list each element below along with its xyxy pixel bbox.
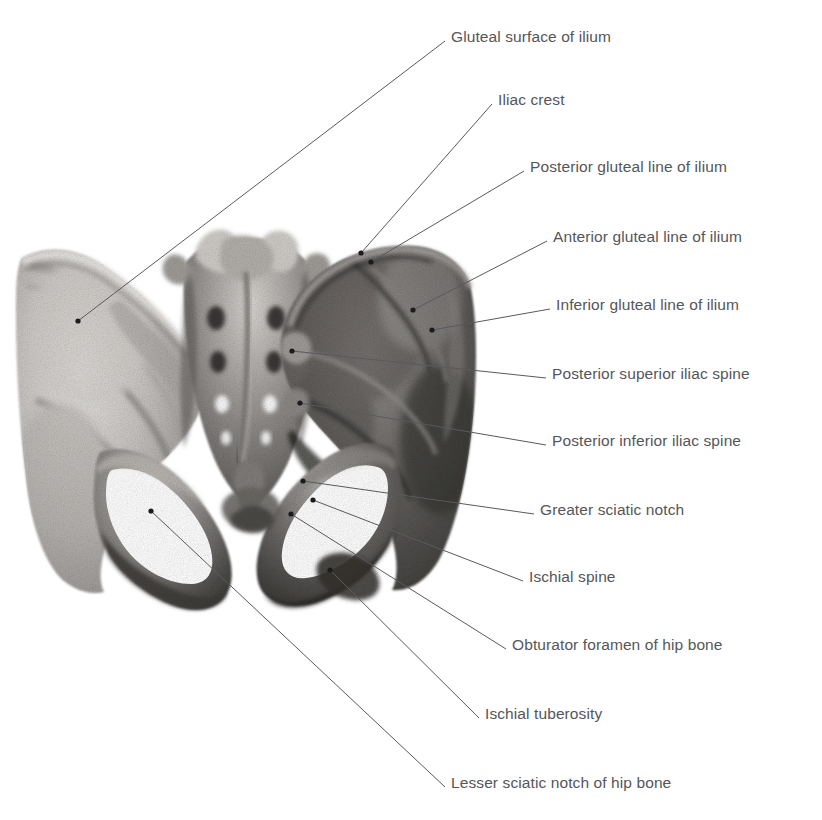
label-greater-sciatic-notch: Greater sciatic notch (540, 502, 684, 518)
leader-line-posterior-gluteal-line-of-ilium (371, 171, 524, 262)
leader-dot-greater-sciatic-notch (300, 478, 305, 483)
label-gluteal-surface-of-ilium: Gluteal surface of ilium (451, 29, 611, 45)
anatomy-figure-canvas: Gluteal surface of iliumIliac crestPoste… (0, 0, 822, 820)
label-anterior-gluteal-line-of-ilium: Anterior gluteal line of ilium (553, 229, 742, 245)
leader-line-ischial-tuberosity (330, 570, 479, 718)
label-ischial-spine: Ischial spine (529, 569, 616, 585)
leader-dot-posterior-inferior-iliac-spine (297, 400, 302, 405)
pelvis-illustration (0, 0, 822, 820)
label-posterior-superior-iliac-spine: Posterior superior iliac spine (552, 366, 750, 382)
label-obturator-foramen-of-hip-bone: Obturator foramen of hip bone (512, 637, 723, 653)
label-ischial-tuberosity: Ischial tuberosity (485, 706, 602, 722)
leader-dot-posterior-superior-iliac-spine (289, 348, 294, 353)
leader-dot-lesser-sciatic-notch-of-hip-bone (148, 508, 153, 513)
leader-dot-inferior-gluteal-line-of-ilium (429, 327, 434, 332)
leader-dot-anterior-gluteal-line-of-ilium (410, 307, 415, 312)
label-iliac-crest: Iliac crest (498, 92, 565, 108)
leader-dot-ischial-tuberosity (327, 567, 332, 572)
leader-dot-posterior-gluteal-line-of-ilium (368, 259, 373, 264)
label-inferior-gluteal-line-of-ilium: Inferior gluteal line of ilium (556, 297, 739, 313)
label-posterior-inferior-iliac-spine: Posterior inferior iliac spine (552, 433, 741, 449)
leader-dot-ischial-spine (310, 497, 315, 502)
left-ischiopubic-ring (94, 449, 232, 610)
leader-dot-gluteal-surface-of-ilium (75, 318, 80, 323)
leader-dot-iliac-crest (358, 250, 363, 255)
leader-line-iliac-crest (361, 104, 492, 253)
leader-dot-obturator-foramen-of-hip-bone (288, 511, 293, 516)
label-posterior-gluteal-line-of-ilium: Posterior gluteal line of ilium (530, 159, 727, 175)
label-lesser-sciatic-notch-of-hip-bone: Lesser sciatic notch of hip bone (451, 775, 671, 791)
